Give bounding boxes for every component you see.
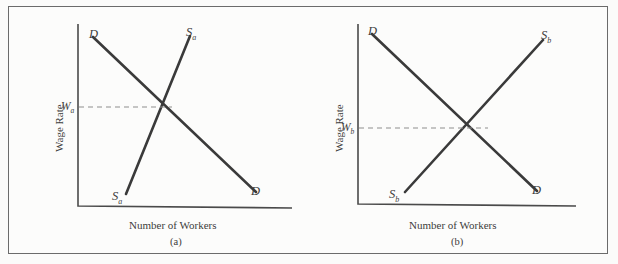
panel-a-supply-top-sub: a (192, 33, 196, 42)
panel-b-demand-top-text: D (368, 24, 377, 38)
panel-b-demand-curve (372, 34, 537, 191)
panel-a-supply-top-label: Sa (186, 26, 196, 42)
panel-b-wage-sub: b (351, 127, 355, 136)
panel-a-plot (20, 0, 320, 248)
panel-a-demand-bottom-text: D (251, 184, 260, 198)
panel-b-caption: (b) (451, 237, 463, 248)
panel-b: D D Sb Sb Wb Wage Rate Number of Workers… (300, 0, 600, 248)
panel-a-demand-top-text: D (89, 27, 98, 41)
panel-b-demand-bottom-text: D (532, 183, 541, 197)
panel-b-demand-top-label: D (368, 25, 377, 38)
panel-a-caption: (a) (170, 237, 182, 248)
panel-a-demand-top-label: D (89, 28, 98, 41)
panel-b-supply-bottom-label: Sb (389, 188, 399, 204)
panel-a-y-axis-title: Wage Rate (54, 104, 65, 152)
panel-b-y-axis-title: Wage Rate (334, 104, 345, 152)
panel-a-supply-bottom-label: Sa (112, 190, 122, 206)
panel-b-supply-bottom-sub: b (395, 195, 399, 204)
panel-b-x-axis-title: Number of Workers (409, 220, 497, 231)
figure-root: D D Sa Sa Wa Wage Rate Number of Workers… (0, 0, 618, 264)
panel-a: D D Sa Sa Wa Wage Rate Number of Workers… (20, 0, 320, 248)
panel-b-demand-bottom-label: D (532, 184, 541, 197)
panel-a-supply-bottom-sub: a (118, 197, 122, 206)
panel-b-supply-curve (405, 40, 543, 192)
panel-a-demand-curve (93, 37, 256, 192)
panel-b-supply-top-label: Sb (541, 29, 551, 45)
panel-b-supply-top-sub: b (547, 36, 551, 45)
panel-a-demand-bottom-label: D (251, 185, 260, 198)
panel-a-x-axis-title: Number of Workers (129, 220, 217, 231)
panel-a-wage-sub: a (71, 106, 75, 115)
panel-a-supply-curve (126, 36, 190, 194)
